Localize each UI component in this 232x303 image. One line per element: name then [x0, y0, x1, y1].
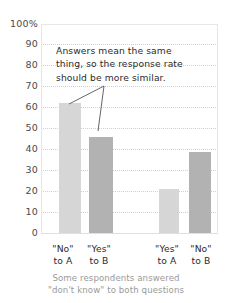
y-tick-20: 20 — [26, 186, 39, 196]
bar-yes-to-b — [89, 137, 113, 233]
bar-chart-figure: 100% 90 80 70 60 50 40 30 20 10 0 Answer… — [0, 0, 232, 303]
x-label-yes-to-b-line1: "Yes" — [82, 243, 116, 255]
bar-no-to-b — [189, 152, 211, 234]
y-tick-10: 10 — [26, 207, 39, 217]
annotation-line-1: Answers mean the same — [56, 44, 196, 57]
x-label-yes-to-a: "Yes" to A — [150, 243, 184, 268]
annotation-callout: Answers mean the same thing, so the resp… — [56, 44, 196, 84]
annotation-line-2: thing, so the response rate — [56, 57, 196, 70]
annotation-line-3: should be more similar. — [56, 71, 196, 84]
y-tick-100: 100% — [10, 19, 38, 29]
x-label-yes-to-a-line1: "Yes" — [150, 243, 184, 255]
x-label-yes-to-a-line2: to A — [150, 255, 184, 267]
x-label-no-to-a-line2: to A — [48, 255, 78, 267]
y-tick-30: 30 — [26, 165, 39, 175]
chart-footnote: Some respondents answered "don't know" t… — [0, 272, 232, 297]
x-label-yes-to-b: "Yes" to B — [82, 243, 116, 268]
y-tick-70: 70 — [26, 81, 39, 91]
y-tick-90: 90 — [26, 39, 39, 49]
footnote-line-2: "don't know" to both questions — [0, 284, 232, 296]
x-label-yes-to-b-line2: to B — [82, 255, 116, 267]
y-tick-0: 0 — [32, 228, 38, 238]
x-label-no-to-b-line1: "No" — [186, 243, 216, 255]
y-tick-80: 80 — [26, 60, 39, 70]
footnote-line-1: Some respondents answered — [0, 272, 232, 284]
bar-yes-to-a — [159, 189, 179, 233]
y-tick-40: 40 — [26, 144, 39, 154]
y-tick-50: 50 — [26, 123, 39, 133]
x-label-no-to-a: "No" to A — [48, 243, 78, 268]
x-label-no-to-b-line2: to B — [186, 255, 216, 267]
x-label-no-to-a-line1: "No" — [48, 243, 78, 255]
bar-no-to-a — [59, 103, 81, 233]
x-label-no-to-b: "No" to B — [186, 243, 216, 268]
gridline-0 — [41, 233, 218, 234]
y-tick-60: 60 — [26, 102, 39, 112]
